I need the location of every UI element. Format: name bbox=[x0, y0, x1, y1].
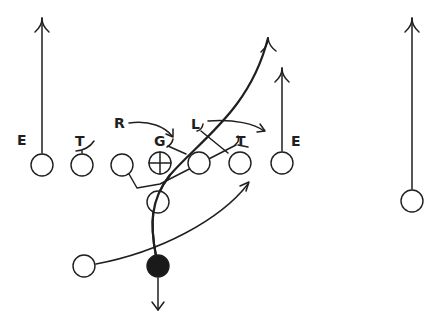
blocking-lines bbox=[129, 131, 236, 188]
label-l: L bbox=[191, 116, 200, 132]
flanker-player bbox=[401, 190, 423, 212]
label-right-tackle: T bbox=[236, 133, 246, 149]
arrowhead-icon bbox=[261, 38, 276, 52]
players bbox=[31, 152, 423, 277]
right-guard-player bbox=[188, 152, 210, 174]
qb-drop-route bbox=[152, 278, 164, 310]
quarterback-player bbox=[147, 255, 169, 277]
right-end-route bbox=[275, 68, 289, 151]
left-guard-player bbox=[111, 154, 133, 176]
right-tackle-player bbox=[229, 152, 251, 174]
r-pull-route bbox=[129, 122, 173, 137]
right-end-player bbox=[271, 152, 293, 174]
halfback-route bbox=[96, 182, 249, 264]
halfback-player bbox=[73, 255, 95, 277]
play-diagram: E T R G L T E bbox=[0, 0, 440, 322]
label-right-end: E bbox=[291, 133, 301, 149]
center-player bbox=[149, 152, 171, 174]
left-end-route bbox=[35, 18, 49, 153]
flanker-route bbox=[405, 18, 419, 189]
label-left-tackle: T bbox=[75, 133, 85, 149]
left-tackle-player bbox=[71, 154, 93, 176]
label-left-end: E bbox=[17, 132, 27, 148]
label-guard: G bbox=[154, 133, 166, 149]
label-r: R bbox=[114, 115, 125, 131]
arrowhead-icon bbox=[240, 182, 249, 191]
left-end-player bbox=[31, 154, 53, 176]
